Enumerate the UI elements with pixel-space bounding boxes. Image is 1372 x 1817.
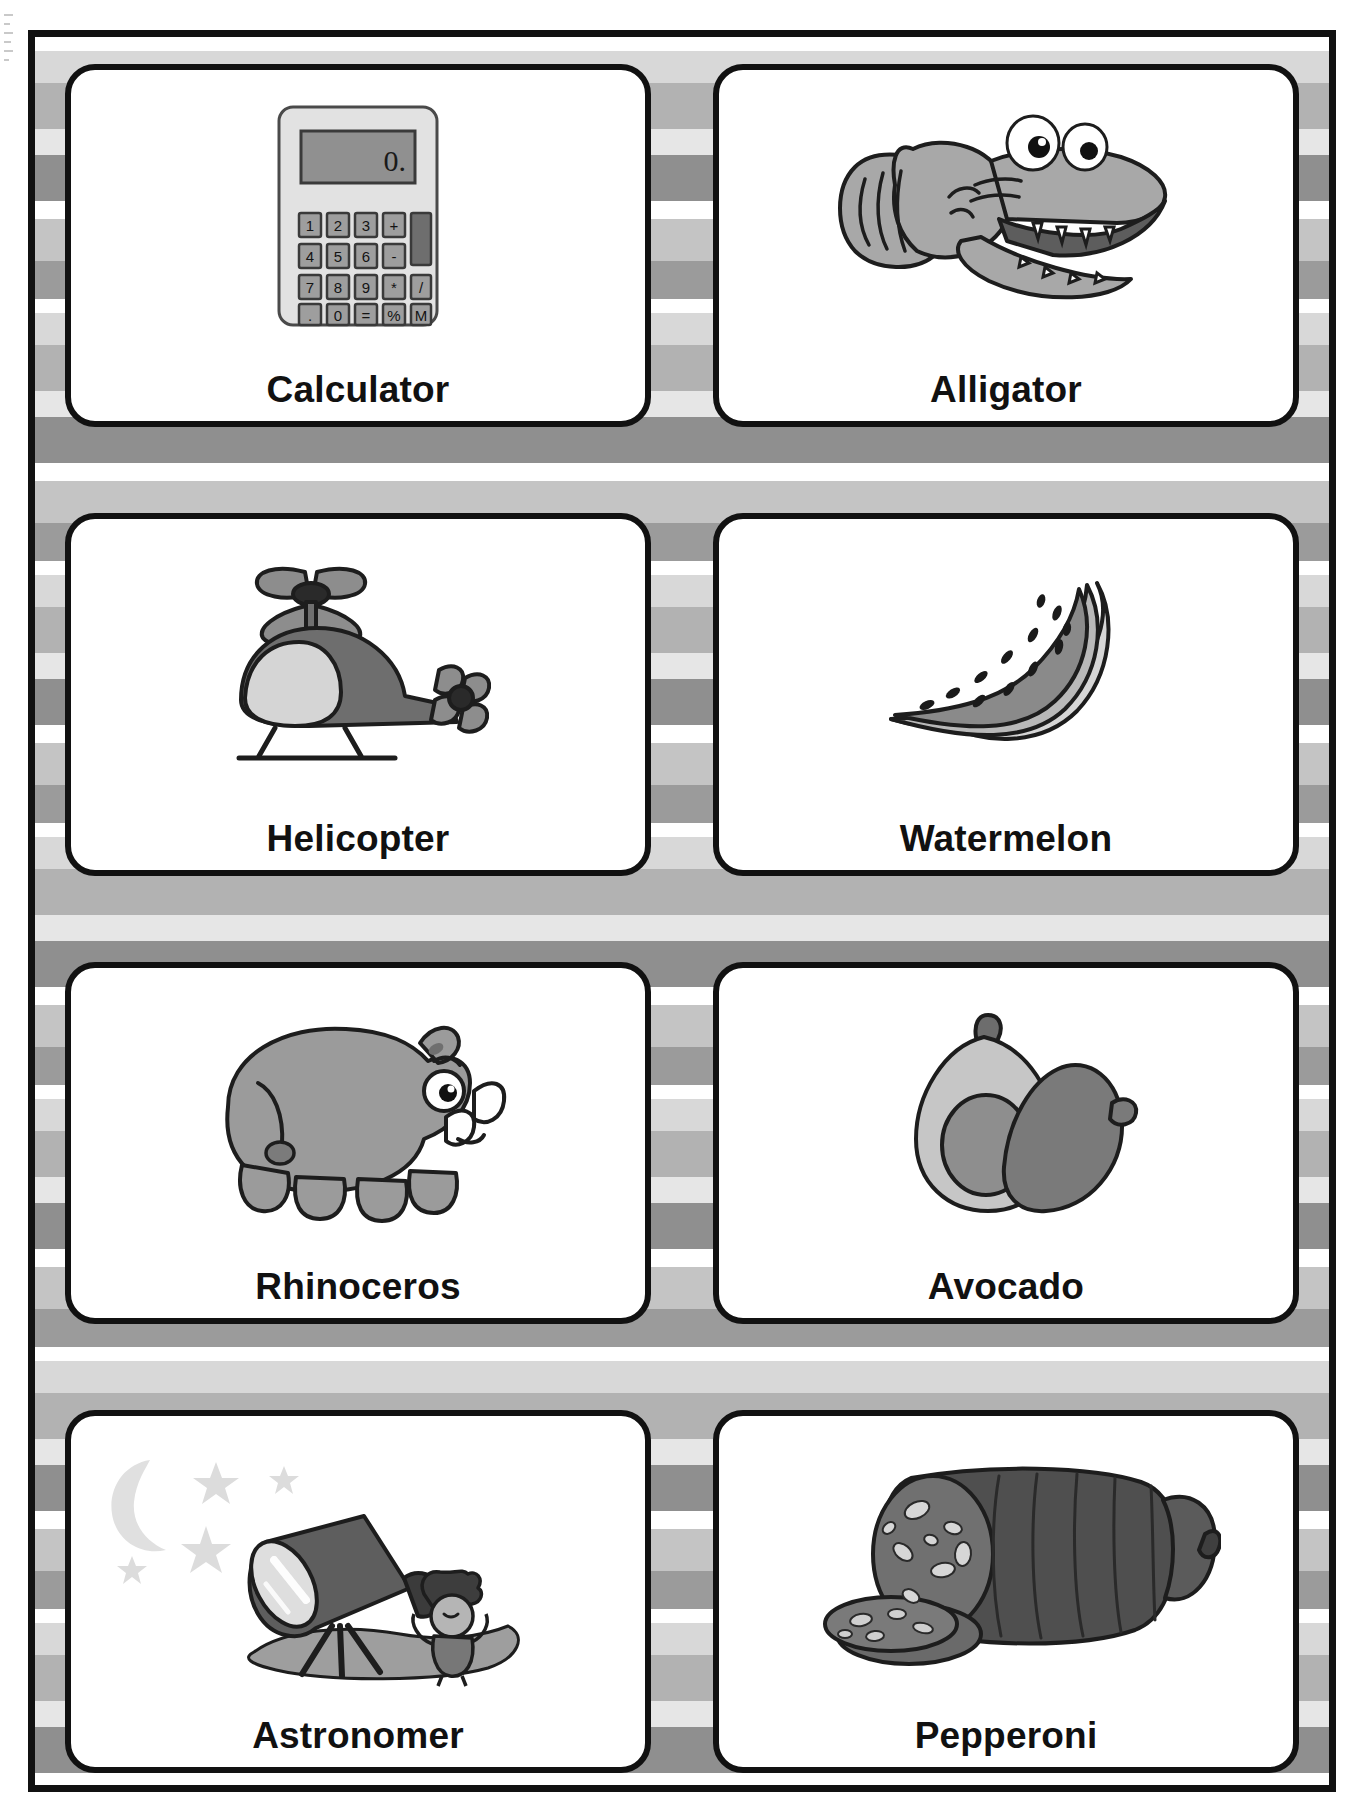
svg-text:9: 9 — [362, 279, 370, 296]
flashcard-alligator[interactable]: Alligator — [713, 64, 1299, 427]
flashcard-pepperoni[interactable]: Pepperoni — [713, 1410, 1299, 1773]
pepperoni-icon — [719, 1416, 1293, 1709]
svg-text:4: 4 — [306, 248, 314, 265]
flashcard-label: Avocado — [928, 1268, 1084, 1305]
svg-text:M: M — [415, 307, 428, 324]
svg-text:3: 3 — [362, 217, 370, 234]
svg-text:2: 2 — [334, 217, 342, 234]
svg-text:5: 5 — [334, 248, 342, 265]
watermelon-icon — [719, 519, 1293, 812]
flashcard-label: Alligator — [930, 371, 1082, 408]
flashcard-watermelon[interactable]: Watermelon — [713, 513, 1299, 876]
rhinoceros-icon — [71, 968, 645, 1261]
worksheet-sheet: 0. — [28, 30, 1336, 1792]
svg-text:=: = — [362, 307, 371, 324]
flashcard-label: Pepperoni — [915, 1717, 1098, 1754]
flashcard-label: Watermelon — [900, 820, 1112, 857]
flashcard-label: Calculator — [267, 371, 450, 408]
printer-margin-marks — [4, 14, 18, 164]
alligator-icon — [719, 70, 1293, 363]
flashcard-label: Rhinoceros — [255, 1268, 461, 1305]
flashcard-avocado[interactable]: Avocado — [713, 962, 1299, 1325]
flashcard-calculator[interactable]: 0. — [65, 64, 651, 427]
svg-text:-: - — [392, 248, 397, 265]
svg-text:+: + — [390, 217, 399, 234]
svg-text:*: * — [391, 279, 397, 296]
flashcard-helicopter[interactable]: Helicopter — [65, 513, 651, 876]
svg-text:%: % — [387, 307, 400, 324]
svg-text:6: 6 — [362, 248, 370, 265]
flashcard-grid: 0. — [35, 37, 1329, 1785]
svg-text:1: 1 — [306, 217, 314, 234]
flashcard-label: Astronomer — [252, 1717, 464, 1754]
svg-text:7: 7 — [306, 279, 314, 296]
svg-text:0.: 0. — [384, 144, 407, 177]
flashcard-astronomer[interactable]: Astronomer — [65, 1410, 651, 1773]
astronomer-icon — [71, 1416, 645, 1709]
flashcard-rhinoceros[interactable]: Rhinoceros — [65, 962, 651, 1325]
flashcard-label: Helicopter — [267, 820, 450, 857]
svg-text:0: 0 — [334, 307, 342, 324]
svg-text:8: 8 — [334, 279, 342, 296]
helicopter-icon — [71, 519, 645, 812]
avocado-icon — [719, 968, 1293, 1261]
svg-text:.: . — [308, 307, 312, 324]
calculator-icon: 0. — [71, 70, 645, 363]
